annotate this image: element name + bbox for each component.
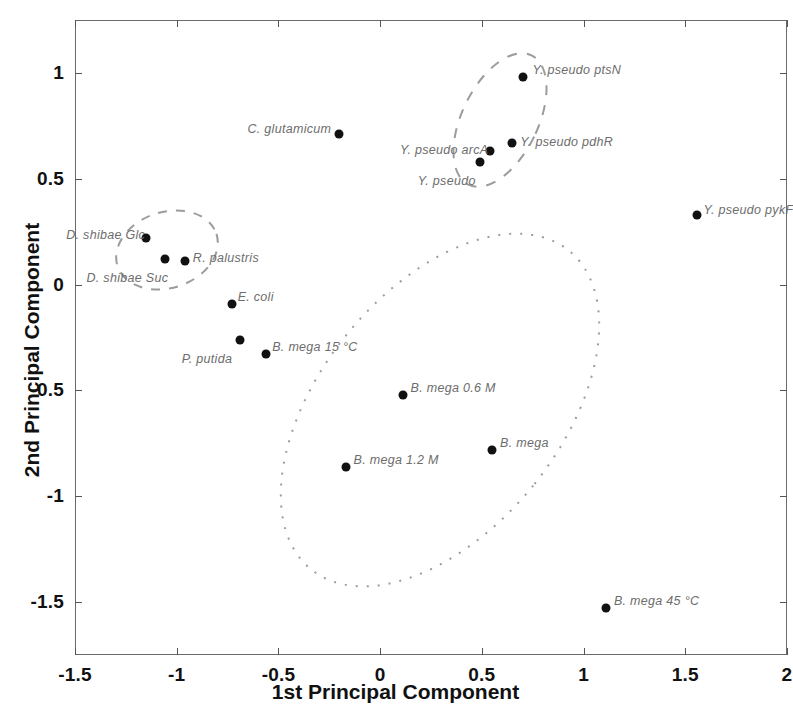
data-point-label: B. mega 45 °C — [614, 594, 699, 608]
data-point-label: Y. pseudo pykF — [703, 203, 793, 217]
data-point-label: Y. pseudo pdhR — [520, 135, 613, 149]
data-point — [601, 604, 610, 613]
y-tick-right — [780, 602, 787, 603]
y-tick — [75, 390, 82, 391]
data-point — [262, 350, 271, 359]
data-point — [235, 335, 244, 344]
x-tick-top — [787, 20, 788, 27]
y-tick-right — [780, 285, 787, 286]
data-point-label: B. mega 15 °C — [272, 340, 357, 354]
data-point-label: Y. pseudo ptsN — [533, 63, 622, 77]
x-tick — [380, 648, 381, 655]
data-point — [398, 390, 407, 399]
data-point-label: B. mega 1.2 M — [354, 453, 439, 467]
data-point — [475, 157, 484, 166]
x-tick — [278, 648, 279, 655]
y-tick — [75, 285, 82, 286]
data-point-label: Y. pseudo arcA — [400, 143, 489, 157]
y-tick-right — [780, 496, 787, 497]
data-point — [180, 257, 189, 266]
data-point — [518, 73, 527, 82]
data-point — [341, 462, 350, 471]
x-tick — [177, 648, 178, 655]
y-tick-right — [780, 179, 787, 180]
data-point — [488, 445, 497, 454]
y-tick-right — [780, 73, 787, 74]
x-tick-top — [177, 20, 178, 27]
x-tick-top — [685, 20, 686, 27]
x-tick-top — [584, 20, 585, 27]
data-point-label: B. mega 0.6 M — [411, 381, 496, 395]
x-tick — [482, 648, 483, 655]
y-axis-title: 2nd Principal Component — [20, 50, 44, 650]
data-point — [160, 255, 169, 264]
data-point-label: E. coli — [238, 290, 274, 304]
data-point — [693, 210, 702, 219]
x-tick — [787, 648, 788, 655]
x-tick — [75, 648, 76, 655]
x-tick-top — [75, 20, 76, 27]
data-point-label: R. palustris — [193, 251, 259, 265]
y-tick — [75, 179, 82, 180]
data-point — [335, 130, 344, 139]
data-point-label: D. shibae Glc — [66, 228, 145, 242]
data-point — [508, 138, 517, 147]
x-tick-top — [380, 20, 381, 27]
y-tick — [75, 496, 82, 497]
data-point-label: C. glutamicum — [247, 122, 331, 136]
x-tick-top — [278, 20, 279, 27]
plot-frame — [75, 20, 787, 655]
x-tick — [584, 648, 585, 655]
data-point-label: Y. pseudo — [418, 174, 476, 188]
y-tick — [75, 602, 82, 603]
x-tick — [685, 648, 686, 655]
plot-area: Y. pseudo ptsNC. glutamicumY. pseudo arc… — [75, 20, 787, 655]
data-point-label: B. mega — [500, 436, 549, 450]
data-point-label: D. shibae Suc — [87, 271, 169, 285]
y-tick-right — [780, 390, 787, 391]
data-point-label: P. putida — [182, 352, 232, 366]
data-point — [227, 299, 236, 308]
y-tick — [75, 73, 82, 74]
x-axis-title: 1st Principal Component — [0, 680, 791, 704]
x-tick-top — [482, 20, 483, 27]
